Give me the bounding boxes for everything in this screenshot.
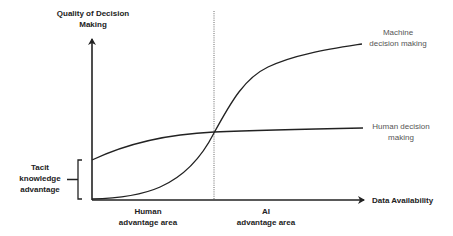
ai-area-line1: AI [226, 206, 306, 217]
tacit-label-line3: advantage [14, 184, 66, 195]
tacit-knowledge-bracket [67, 160, 82, 199]
ai-advantage-area-label: AI advantage area [226, 206, 306, 228]
machine-decision-curve [92, 44, 362, 199]
human-area-line1: Human [108, 206, 188, 217]
tacit-knowledge-label: Tacit knowledge advantage [14, 162, 66, 195]
x-axis-label: Data Availability [372, 195, 433, 206]
y-axis-label-line2: Making [48, 19, 138, 30]
human-label-line1: Human decision [368, 121, 434, 132]
tacit-label-line1: Tacit [14, 162, 66, 173]
tacit-label-line2: knowledge [14, 173, 66, 184]
machine-label-line2: decision making [365, 38, 431, 49]
y-axis-label: Quality of Decision Making [48, 8, 138, 30]
human-label-line2: making [368, 132, 434, 143]
decision-quality-diagram: Quality of Decision Making Data Availabi… [0, 0, 453, 236]
machine-curve-label: Machine decision making [365, 27, 431, 49]
human-area-line2: advantage area [108, 217, 188, 228]
human-advantage-area-label: Human advantage area [108, 206, 188, 228]
human-curve-label: Human decision making [368, 121, 434, 143]
machine-label-line1: Machine [365, 27, 431, 38]
ai-area-line2: advantage area [226, 217, 306, 228]
x-axis-label-text: Data Availability [372, 196, 433, 205]
human-decision-curve [92, 128, 363, 160]
y-axis-label-line1: Quality of Decision [48, 8, 138, 19]
